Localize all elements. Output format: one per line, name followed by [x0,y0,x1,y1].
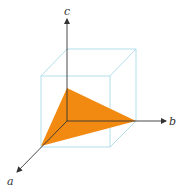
crystal-plane-diagram: c b a [0,0,185,194]
axis-label-b: b [169,115,176,128]
axis-a [17,121,67,172]
axis-label-a: a [7,175,14,188]
axes [17,19,166,172]
axis-label-c: c [64,5,70,18]
miller-plane [41,88,136,146]
